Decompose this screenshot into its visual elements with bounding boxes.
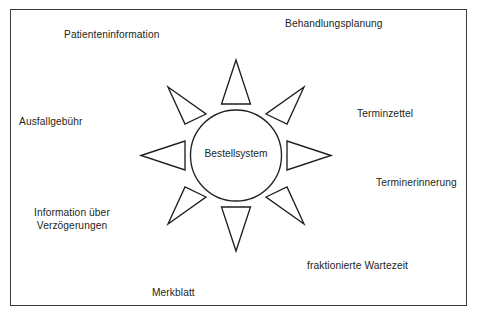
label-patienteninformation: Patienteninformation [64,29,159,42]
center-label: Bestellsystem [190,148,282,159]
diagram-page: Bestellsystem Patienteninformation Behan… [0,0,478,319]
label-merkblatt: Merkblatt [152,287,195,300]
label-line-2: Verzögerungen [20,220,124,233]
label-ausfallgebuehr: Ausfallgebühr [19,116,83,129]
label-information-ueber-verzoegerungen: Information über Verzögerungen [20,207,124,232]
label-terminerinnerung: Terminerinnerung [376,177,457,190]
label-line-1: Information über [20,207,124,220]
label-behandlungsplanung: Behandlungsplanung [285,18,383,31]
label-terminzettel: Terminzettel [357,108,413,121]
label-fraktionierte-wartezeit: fraktionierte Wartezeit [307,260,408,273]
